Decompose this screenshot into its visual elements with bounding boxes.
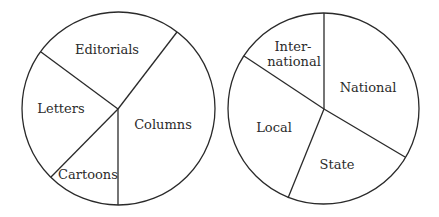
slice-label-international-line1: Inter-	[274, 39, 311, 54]
pie-diagrams: Editorials Letters Columns Cartoons Inte…	[0, 0, 439, 217]
slice-label-cartoons: Cartoons	[58, 167, 118, 182]
slice-label-columns: Columns	[134, 117, 192, 132]
divider-national-state	[324, 109, 405, 157]
divider-state-local	[288, 109, 324, 198]
slice-label-state: State	[320, 157, 355, 172]
pie-chart-left: Editorials Letters Columns Cartoons	[22, 12, 215, 205]
slice-label-letters: Letters	[37, 101, 84, 116]
slice-label-national: National	[340, 80, 397, 95]
pie-chart-right: Inter- national National Local State	[228, 13, 419, 204]
slice-label-local: Local	[256, 120, 292, 135]
slice-label-international-line2: national	[267, 54, 321, 69]
slice-label-editorials: Editorials	[75, 42, 139, 57]
